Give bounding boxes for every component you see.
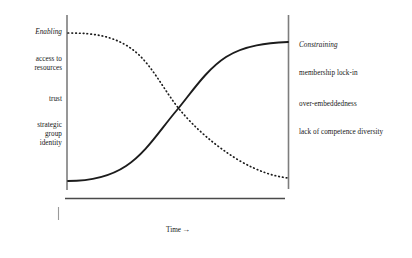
right-label-constraining: Constraining xyxy=(299,41,411,50)
x-axis-caption: Time→ xyxy=(166,225,256,234)
left-label-strategic-group-identity: strategic group identity xyxy=(4,121,62,149)
right-arrow-icon: → xyxy=(181,225,190,234)
right-label-over-embeddedness: over-embeddedness xyxy=(299,100,411,109)
enabling-curve-dotted xyxy=(68,33,288,178)
x-axis-caption-text: Time xyxy=(166,226,181,234)
left-label-access-to-resources: access to resources xyxy=(4,55,62,73)
right-label-membership-lock-in: membership lock-in xyxy=(299,69,411,78)
left-label-trust: trust xyxy=(4,95,62,104)
constraining-curve-solid xyxy=(68,42,288,181)
figure-container: Enabling access to resources trust strat… xyxy=(0,0,412,258)
right-label-lack-of-competence-diversity: lack of competence diversity xyxy=(299,128,411,137)
left-label-enabling: Enabling xyxy=(4,28,62,37)
